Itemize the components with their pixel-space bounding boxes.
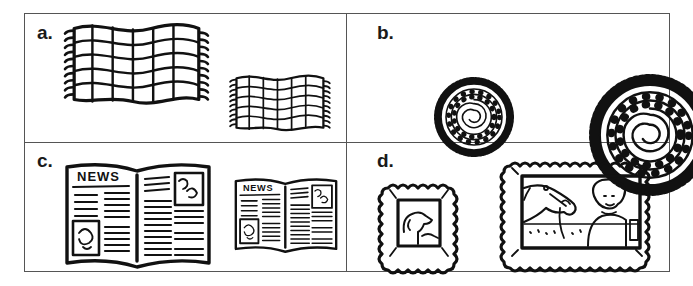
- framed-horse-and-person-picture-large-icon: [502, 158, 652, 266]
- rug-large-icon: [62, 22, 214, 106]
- cell-label-a: a.: [37, 22, 53, 44]
- rug-small-icon: [228, 72, 334, 134]
- round-rug-large-icon: [528, 13, 650, 135]
- newspaper-large-icon: [63, 160, 213, 270]
- cell-label-d: d.: [377, 150, 394, 172]
- cell-label-b: b.: [377, 22, 394, 44]
- framed-dog-picture-small-icon: [380, 180, 458, 266]
- round-rug-small-icon: [394, 37, 474, 117]
- cell-label-c: c.: [37, 150, 53, 172]
- newspaper-small-icon: [233, 176, 339, 254]
- grid-horizontal-divider: [24, 142, 670, 143]
